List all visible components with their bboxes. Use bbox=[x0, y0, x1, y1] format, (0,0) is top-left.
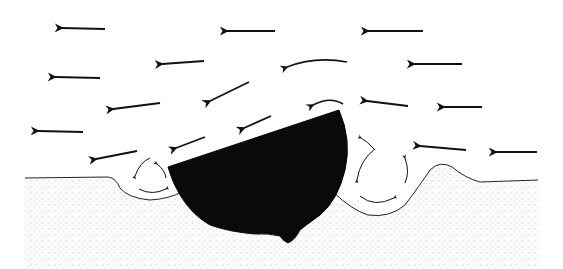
wind-arrow-icon bbox=[420, 146, 466, 150]
wind-arrow-icon bbox=[38, 131, 83, 132]
eddy-arrow-icon bbox=[405, 158, 408, 183]
eddy-arrow-icon bbox=[357, 149, 375, 180]
eddy-arrow-icon bbox=[139, 189, 166, 193]
eddy-arrow-icon bbox=[360, 196, 394, 203]
eddy-arrow-icon bbox=[313, 100, 343, 105]
wind-arrow-icon bbox=[210, 82, 249, 101]
wind-arrow-icon bbox=[244, 116, 271, 128]
diagram-canvas: Wind flow around a partially buried obje… bbox=[0, 0, 563, 269]
wind-arrow-icon bbox=[113, 103, 160, 109]
wind-arrow-icon bbox=[62, 28, 105, 29]
wind-scour-diagram bbox=[0, 0, 563, 269]
wind-arrow-icon bbox=[96, 151, 137, 159]
wind-arrow-icon bbox=[162, 61, 204, 64]
wind-arrow-icon bbox=[55, 77, 100, 78]
wind-arrow-icon bbox=[367, 101, 408, 106]
eddy-arrow-icon bbox=[135, 158, 150, 176]
wind-arrow-icon bbox=[176, 137, 205, 148]
eddy-arrow-icon bbox=[287, 60, 347, 67]
eddy-arrow-icon bbox=[157, 164, 166, 178]
eddy-arrow-icon bbox=[361, 138, 374, 149]
